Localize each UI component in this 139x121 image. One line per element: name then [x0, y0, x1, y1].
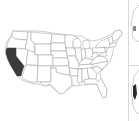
state-colorado — [38, 55, 53, 66]
state-north-dakota — [51, 34, 65, 43]
state-kansas — [53, 58, 69, 66]
state-florida — [84, 78, 107, 98]
state-wyoming — [35, 44, 51, 55]
inset-map-top — [129, 0, 139, 65]
state-arkansas — [69, 68, 78, 76]
state-mississippi — [77, 69, 82, 83]
inset-bottom-highlight — [133, 84, 137, 100]
inset-top-highlight — [133, 26, 136, 31]
state-iowa — [66, 48, 76, 56]
state-new-mexico — [37, 66, 51, 82]
state-nebraska — [51, 51, 68, 58]
state-michigan — [83, 40, 90, 49]
state-pennsylvania — [92, 47, 106, 53]
state-montana — [31, 32, 52, 44]
state-maine — [112, 30, 122, 41]
state-south-dakota — [51, 43, 66, 51]
inset-top-outline — [131, 5, 139, 42]
us-states-map — [0, 0, 128, 121]
inset-map-bottom — [129, 66, 139, 121]
